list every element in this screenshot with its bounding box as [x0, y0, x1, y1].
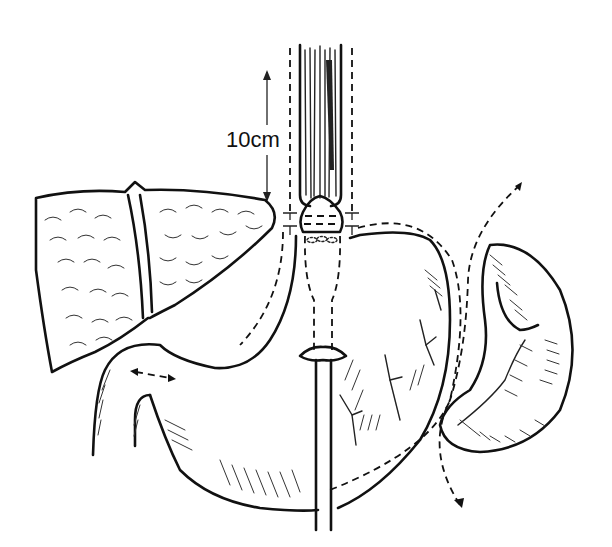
esophagus-icon — [300, 45, 343, 243]
measurement-label: 10cm — [225, 128, 281, 152]
tube-icon — [300, 347, 346, 530]
stomach-icon — [93, 232, 450, 510]
resection-lines — [240, 48, 522, 508]
spleen-icon — [440, 245, 573, 452]
anatomical-diagram — [0, 0, 612, 547]
